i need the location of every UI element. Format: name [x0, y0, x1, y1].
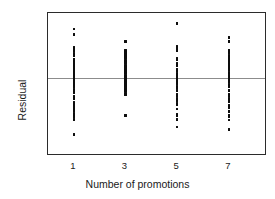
plot-area — [47, 12, 266, 155]
data-point — [73, 119, 76, 122]
y-axis-tick — [47, 150, 48, 151]
data-point — [73, 97, 76, 100]
data-point — [176, 65, 179, 68]
residual-scatter-figure: Residual 0.60.40.20-0.2-0.4-0.6-0.8 1357… — [0, 0, 275, 199]
x-axis-tick-minor — [100, 154, 101, 155]
y-axis-tick — [47, 114, 48, 115]
x-axis-tick-major — [126, 154, 127, 155]
data-point — [124, 93, 127, 96]
data-point — [228, 110, 231, 113]
data-point — [176, 114, 179, 117]
data-point — [228, 106, 231, 109]
data-point — [228, 128, 231, 131]
data-point — [124, 114, 127, 117]
y-axis-tick — [47, 96, 48, 97]
data-point — [124, 40, 127, 43]
data-point — [176, 90, 179, 93]
x-axis-tick-minor — [203, 154, 204, 155]
data-point — [228, 119, 231, 122]
y-axis-tick — [47, 60, 48, 61]
data-point — [228, 90, 231, 93]
data-point — [73, 55, 76, 58]
data-point — [73, 33, 76, 36]
x-tick-label: 5 — [166, 161, 186, 171]
x-tick-label: 1 — [63, 161, 83, 171]
data-point — [228, 115, 231, 118]
x-axis-tick-major — [74, 154, 75, 155]
data-point — [228, 40, 231, 43]
data-point — [176, 49, 179, 52]
data-point — [73, 28, 76, 31]
x-axis-tick-major — [229, 154, 230, 155]
x-tick-label: 7 — [218, 161, 238, 171]
data-point — [228, 85, 231, 88]
data-point — [73, 92, 76, 95]
x-axis-title: Number of promotions — [0, 178, 275, 190]
x-axis-tick-major — [177, 154, 178, 155]
x-tick-label: 3 — [115, 161, 135, 171]
y-axis-title: Residual — [16, 79, 28, 120]
data-point — [176, 58, 179, 61]
data-point — [176, 108, 179, 111]
y-axis-tick — [47, 42, 48, 43]
data-point — [176, 119, 179, 122]
data-point — [73, 133, 76, 136]
data-point — [176, 22, 179, 25]
data-point — [176, 103, 179, 106]
y-axis-tick — [47, 24, 48, 25]
data-point — [176, 126, 179, 129]
y-axis-tick — [47, 132, 48, 133]
y-axis-tick — [47, 78, 48, 79]
zero-reference-line — [48, 78, 265, 79]
x-axis-tick-minor — [151, 154, 152, 155]
